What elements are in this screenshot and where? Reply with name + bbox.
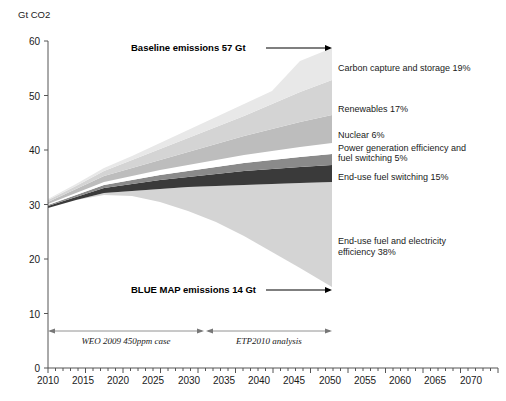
period-right-label: ETP2010 analysis	[235, 336, 302, 346]
x-tick-label-2030: 2030	[178, 375, 201, 386]
wedge-label-end-use-fuel-switching: End-use fuel switching 15%	[338, 172, 449, 182]
wedge-label-power-generation-efficiency-line1: Power generation efficiency and	[338, 143, 466, 153]
x-tick-label-2010: 2010	[37, 375, 60, 386]
x-tick-label-2045: 2045	[283, 375, 306, 386]
y-axis-title: Gt CO2	[18, 9, 50, 20]
y-tick-label-50: 50	[29, 91, 41, 102]
x-tick-label-2015: 2015	[72, 375, 95, 386]
wedge-label-end-use-efficiency-line2: efficiency 38%	[338, 247, 396, 257]
period-left-arrow-start	[48, 329, 55, 334]
emissions-wedge-chart: Gt CO2 60 50 40 30 20 10 0 2010 2015 202…	[0, 0, 506, 401]
baseline-annotation-label: Baseline emissions 57 Gt	[131, 42, 246, 53]
wedge-label-nuclear: Nuclear 6%	[338, 130, 385, 140]
y-tick-label-10: 10	[29, 309, 41, 320]
bluemap-annotation-label: BLUE MAP emissions 14 Gt	[131, 284, 257, 295]
period-left-label: WEO 2009 450ppm case	[81, 336, 170, 346]
y-tick-label-20: 20	[29, 254, 41, 265]
y-tick-labels: 60 50 40 30 20 10 0	[29, 36, 41, 374]
y-tick-label-40: 40	[29, 145, 41, 156]
x-tick-label-2065: 2065	[424, 375, 447, 386]
chart-canvas: Gt CO2 60 50 40 30 20 10 0 2010 2015 202…	[0, 0, 506, 401]
x-tick-label-2040: 2040	[248, 375, 271, 386]
y-tick-label-0: 0	[34, 363, 40, 374]
x-tick-label-2055: 2055	[354, 375, 377, 386]
wedge-label-power-generation-efficiency-line2: fuel switching 5%	[338, 153, 408, 163]
y-tick-label-30: 30	[29, 200, 41, 211]
wedge-end-use-fuel-and-electricity-efficiency	[48, 182, 332, 287]
bluemap-arrow-head	[325, 287, 332, 293]
x-tick-label-2060: 2060	[389, 375, 412, 386]
x-tick-labels: 2010 2015 2020 2025 2030 2035 2040 2045 …	[37, 375, 483, 386]
x-tick-label-2050: 2050	[319, 375, 342, 386]
bluemap-annotation: BLUE MAP emissions 14 Gt	[131, 284, 332, 295]
wedge-areas	[48, 48, 332, 287]
period-left-arrow-end	[197, 329, 204, 334]
period-ranges: WEO 2009 450ppm case ETP2010 analysis	[48, 329, 332, 347]
x-tick-marks	[48, 368, 498, 373]
period-right-arrow-start	[206, 329, 213, 334]
x-tick-label-2070: 2070	[460, 375, 483, 386]
x-tick-label-2035: 2035	[213, 375, 236, 386]
baseline-annotation: Baseline emissions 57 Gt	[131, 42, 332, 53]
x-tick-label-2025: 2025	[142, 375, 165, 386]
wedge-label-carbon-capture-and-storage: Carbon capture and storage 19%	[338, 63, 471, 73]
wedge-label-renewables: Renewables 17%	[338, 104, 408, 114]
x-tick-label-2020: 2020	[107, 375, 130, 386]
wedge-labels: Carbon capture and storage 19% Renewable…	[338, 63, 471, 257]
wedge-label-end-use-efficiency-line1: End-use fuel and electricity	[338, 236, 447, 246]
period-right-arrow-end	[325, 329, 332, 334]
y-tick-label-60: 60	[29, 36, 41, 47]
